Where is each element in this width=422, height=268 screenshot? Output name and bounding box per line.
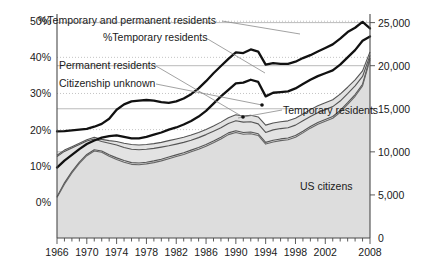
- x-tick-label-1990: 1990: [224, 246, 248, 258]
- left-axis-tick-label-10%: 10%: [30, 160, 51, 172]
- pct-temp-and-perm-label: %Temporary and permanent residents: [38, 14, 216, 26]
- left-axis-tick-label-20%: 20%: [30, 124, 51, 136]
- chart-container: 1966197019741978198219861990199419982002…: [0, 0, 422, 268]
- x-tick-label-1966: 1966: [45, 246, 69, 258]
- x-axis-ticks: [57, 238, 370, 244]
- x-tick-label-2002: 2002: [314, 246, 338, 258]
- x-tick-label-1986: 1986: [194, 246, 218, 258]
- chart-canvas: 1966197019741978198219861990199419982002…: [0, 0, 422, 268]
- right-axis-tick-label-25000: 25,000: [378, 17, 410, 29]
- left-axis-tick-labels: 0%10%20%30%40%50%: [30, 15, 51, 208]
- right-axis-tick-label-20000: 20,000: [378, 60, 410, 72]
- x-tick-label-1978: 1978: [135, 246, 159, 258]
- citizenship-unknown-label: Citizenship unknown: [59, 77, 155, 89]
- x-tick-label-2008: 2008: [358, 246, 382, 258]
- permanent-residents-label: Permanent residents: [59, 59, 156, 71]
- temporary-residents-label: Temporary residents: [283, 104, 378, 116]
- leader-endpoint-dot-2: [260, 103, 264, 107]
- right-axis-tick-label-0: 0: [378, 232, 384, 244]
- right-axis-tick-label-15000: 15,000: [378, 103, 410, 115]
- x-axis-tick-labels: 1966197019741978198219861990199419982002…: [45, 246, 382, 258]
- left-axis-tick-label-30%: 30%: [30, 87, 51, 99]
- x-tick-label-1998: 1998: [284, 246, 308, 258]
- leader-endpoint-dot-1: [241, 115, 245, 119]
- right-axis-tick-labels: 05,00010,00015,00020,00025,000: [370, 17, 410, 244]
- x-tick-label-1994: 1994: [254, 246, 278, 258]
- x-tick-label-1982: 1982: [165, 246, 189, 258]
- left-axis-tick-label-40%: 40%: [30, 51, 51, 63]
- us-citizens-label: US citizens: [300, 180, 353, 192]
- right-axis-tick-label-5000: 5,000: [378, 189, 404, 201]
- right-axis-tick-label-10000: 10,000: [378, 146, 410, 158]
- x-tick-label-1970: 1970: [75, 246, 99, 258]
- left-axis-tick-label-0%: 0%: [36, 196, 51, 208]
- x-tick-label-1974: 1974: [105, 246, 129, 258]
- pct-temp-label: %Temporary residents: [103, 31, 207, 43]
